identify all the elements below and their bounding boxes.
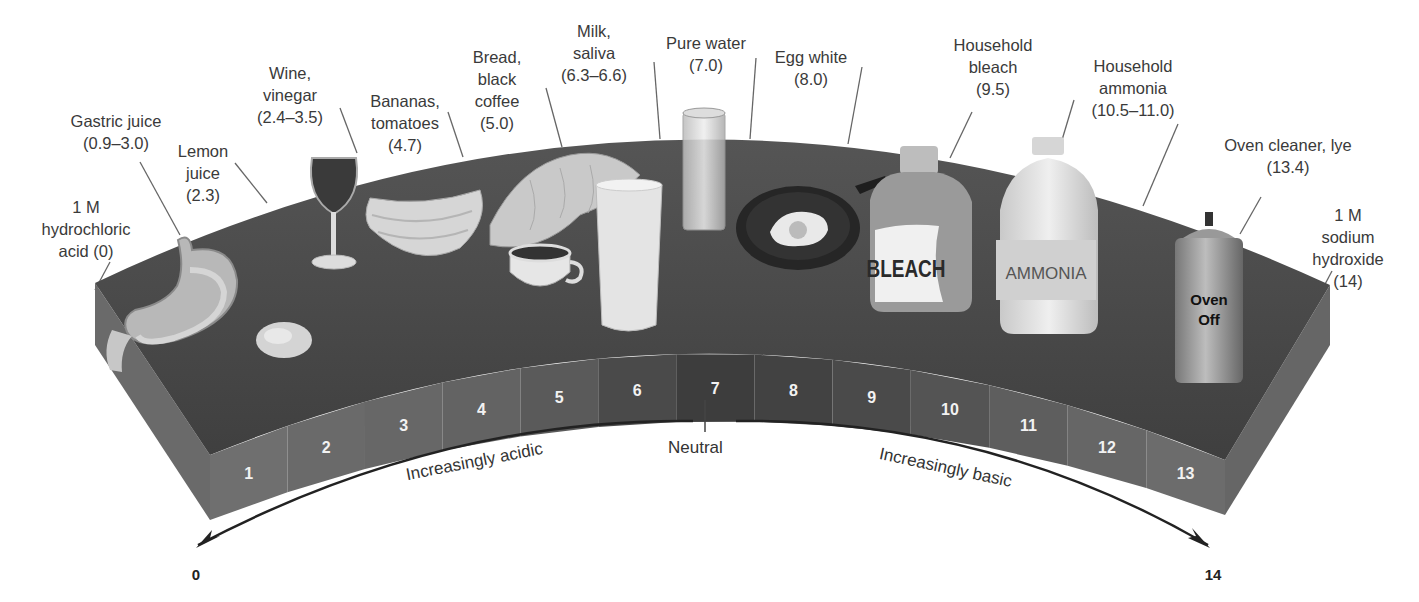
scale-min-label: 0 (192, 566, 200, 583)
label-household-ammonia: Household ammonia (10.5–11.0) (1091, 55, 1174, 121)
ph-band-number: 4 (477, 401, 486, 418)
oven-cleaner-can-icon: Oven Off (1175, 212, 1243, 383)
label-milk-saliva: Milk, saliva (6.3–6.6) (561, 20, 627, 86)
neutral-label: Neutral (668, 438, 723, 458)
label-sodium-hydroxide: 1 M sodium hydroxide (14) (1312, 204, 1384, 292)
ph-band-number: 10 (941, 401, 959, 418)
label-hydrochloric-acid: 1 M hydrochloric acid (0) (42, 196, 131, 262)
label-egg-white: Egg white (8.0) (775, 46, 847, 90)
label-pure-water: Pure water (7.0) (666, 32, 746, 76)
ammonia-jug-icon: AMMONIA (996, 137, 1098, 334)
svg-text:Off: Off (1198, 311, 1221, 328)
label-household-bleach: Household bleach (9.5) (954, 34, 1033, 100)
label-gastric-juice: Gastric juice (0.9–3.0) (71, 110, 162, 154)
ph-band-number: 9 (867, 389, 876, 406)
ph-band-number: 7 (711, 380, 720, 397)
svg-text:BLEACH: BLEACH (866, 257, 945, 284)
label-wine-vinegar: Wine, vinegar (2.4–3.5) (257, 62, 323, 128)
ph-slab-graphic: 12345678910111213 (0, 0, 1419, 602)
ph-band-number: 6 (633, 382, 642, 399)
label-bread-coffee: Bread, black coffee (5.0) (473, 46, 522, 134)
ph-band-number: 5 (555, 389, 564, 406)
ph-band-number: 13 (1177, 465, 1195, 482)
ph-band-number: 2 (322, 439, 331, 456)
label-bananas-tomatoes: Bananas, tomatoes (4.7) (370, 90, 440, 156)
label-lemon-juice: Lemon juice (2.3) (178, 140, 228, 206)
ph-band-number: 1 (244, 465, 253, 482)
ph-scale-diagram: 12345678910111213 (0, 0, 1419, 602)
svg-text:AMMONIA: AMMONIA (1005, 264, 1087, 283)
ph-band-number: 11 (1020, 417, 1037, 434)
lemon-icon (256, 322, 312, 358)
ph-band-number: 3 (399, 417, 408, 434)
scale-max-label: 14 (1205, 566, 1222, 583)
label-oven-cleaner: Oven cleaner, lye (13.4) (1224, 134, 1352, 178)
water-glass-icon (683, 108, 725, 230)
milk-glass-icon (596, 179, 662, 331)
svg-text:Oven: Oven (1190, 291, 1228, 308)
ph-band-number: 12 (1098, 439, 1116, 456)
ph-band-number: 8 (789, 382, 798, 399)
